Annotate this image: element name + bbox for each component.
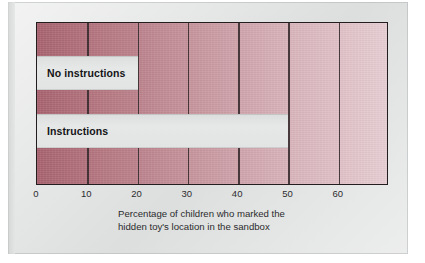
x-tick-50: 50 [282,188,293,199]
chart-page: No instructionsInstructions 010203040506… [0,0,425,263]
bar-no-instructions: No instructions [37,56,138,90]
x-tick-30: 30 [182,188,193,199]
x-tick-40: 40 [232,188,243,199]
gridline-10 [87,23,88,184]
plot-area: No instructionsInstructions [36,22,388,185]
gridline-60 [339,23,340,184]
bar-instructions: Instructions [37,114,288,148]
gridline-40 [238,23,239,184]
bar-label-no-instructions: No instructions [47,67,126,79]
chart-caption: Percentage of children who marked the hi… [118,208,358,233]
gridline-30 [188,23,189,184]
gridline-50 [288,23,289,184]
caption-line-2: hidden toy's location in the sandbox [118,221,358,234]
bar-label-instructions: Instructions [47,125,108,137]
x-axis-tick-labels: 0102030405060 [36,188,388,202]
x-tick-60: 60 [332,188,343,199]
page-edge-seam [9,2,15,254]
plot-background-gradient [37,23,387,184]
caption-line-1: Percentage of children who marked the [118,208,358,221]
gridline-20 [138,23,139,184]
x-tick-20: 20 [131,188,142,199]
x-tick-10: 10 [81,188,92,199]
x-tick-0: 0 [33,188,38,199]
